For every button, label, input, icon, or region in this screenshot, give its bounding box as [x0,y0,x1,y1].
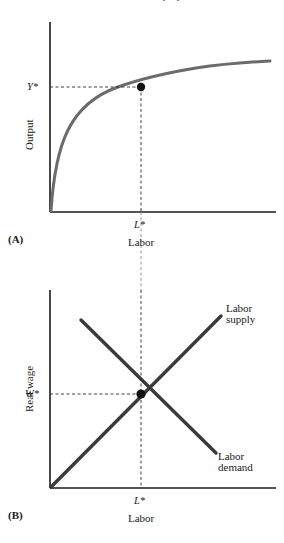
production-function-curve [51,61,270,211]
panel-b-tag: (B) [8,510,23,521]
figure-root: Production and employment [0,0,284,543]
labor-supply-label-line2: supply [226,314,255,325]
panel-b-y-tick-label: W* [25,389,39,400]
panel-a-tag: (A) [8,234,23,245]
panel-a-group [50,22,276,212]
panel-a-equilibrium-marker [137,83,145,91]
labor-demand-label: Labor demand [218,451,253,473]
panel-a-y-axis-title: Output [24,119,35,150]
panel-a-x-tick-label: L* [134,220,145,231]
panel-b-x-tick-label: L* [134,496,145,507]
labor-demand-label-line2: demand [218,462,253,473]
panel-b-equilibrium-marker [136,389,145,398]
labor-supply-label: Labor supply [226,303,255,325]
panel-b-x-axis-title: Labor [128,513,154,524]
panel-a-x-axis-title: Labor [128,237,154,248]
panel-a-y-tick-label: Y* [27,82,38,93]
labor-supply-line [51,316,221,487]
